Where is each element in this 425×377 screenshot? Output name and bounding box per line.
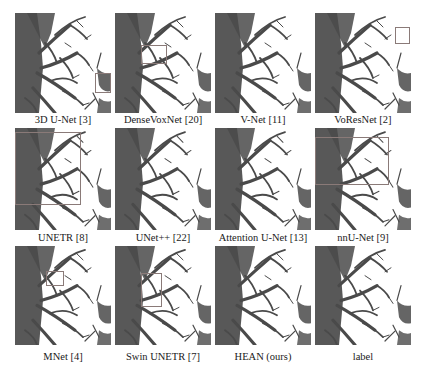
- panel-attention-unet: [215, 128, 311, 230]
- panel-swin-unetr: [115, 246, 211, 345]
- highlight-box: [141, 273, 162, 307]
- caption-mnet: MNet [4]: [13, 351, 113, 362]
- panel-3d-unet: [15, 13, 111, 113]
- panel-unetpp: [115, 128, 211, 230]
- caption-nnunet: nnU-Net [9]: [313, 232, 413, 243]
- caption-voresnet: VoResNet [2]: [313, 114, 413, 125]
- caption-unetpp: UNet++ [22]: [113, 232, 213, 243]
- highlight-box: [46, 271, 64, 286]
- caption-3d-unet: 3D U-Net [3]: [13, 114, 113, 125]
- caption-densevoxnet: DenseVoxNet [20]: [113, 114, 213, 125]
- caption-label: label: [313, 351, 413, 362]
- caption-attention-unet: Attention U-Net [13]: [213, 232, 313, 243]
- highlight-box: [15, 132, 81, 205]
- panel-mnet: [15, 246, 111, 345]
- highlight-box: [395, 27, 410, 44]
- caption-swin-unetr: Swin UNETR [7]: [113, 351, 213, 362]
- caption-unetr: UNETR [8]: [13, 232, 113, 243]
- highlight-box: [95, 73, 111, 93]
- panel-vnet: [215, 13, 311, 113]
- caption-vnet: V-Net [11]: [213, 114, 313, 125]
- panel-label: [315, 246, 411, 345]
- panel-hean: [215, 246, 311, 345]
- caption-hean: HEAN (ours): [213, 351, 313, 362]
- highlight-box: [141, 45, 167, 64]
- highlight-box: [315, 137, 389, 185]
